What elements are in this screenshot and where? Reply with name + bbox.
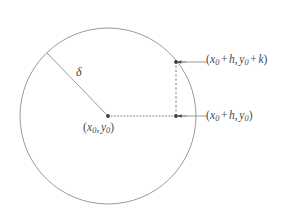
plus-sign: + bbox=[219, 109, 229, 121]
bottom-arrow-icon bbox=[177, 114, 187, 118]
paren-close: ) bbox=[110, 121, 114, 133]
plus-sign: + bbox=[219, 53, 229, 65]
var-h: h bbox=[229, 53, 235, 65]
delta-label: δ bbox=[76, 66, 82, 78]
corner-point-label: (x0+h,y0+k) bbox=[206, 54, 268, 67]
plus-sign: + bbox=[249, 53, 259, 65]
offset-point-dot bbox=[174, 114, 178, 118]
paren-close: ) bbox=[249, 109, 253, 121]
var-h: h bbox=[229, 109, 235, 121]
center-point-label: (x0,y0) bbox=[83, 122, 114, 135]
diagram-svg bbox=[0, 0, 307, 224]
center-point-dot bbox=[106, 114, 110, 118]
radius-line bbox=[47, 53, 108, 116]
figure-canvas: δ (x0+h,y0+k) (x0+h,y0) (x0,y0) bbox=[0, 0, 307, 224]
paren-close: ) bbox=[264, 53, 268, 65]
offset-point-label: (x0+h,y0) bbox=[206, 110, 253, 123]
corner-point-dot bbox=[174, 60, 178, 64]
